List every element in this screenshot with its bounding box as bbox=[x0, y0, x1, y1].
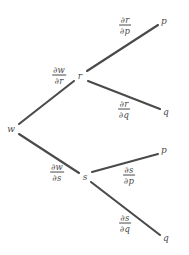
fraction-numerator: ∂r bbox=[119, 16, 131, 25]
fraction-ds-dp: ∂s ∂p bbox=[123, 166, 135, 185]
node-q-from-s: q bbox=[163, 234, 169, 243]
fraction-denominator: ∂r bbox=[52, 76, 66, 85]
node-p-from-r: p bbox=[161, 17, 167, 26]
fraction-ds-dq: ∂s ∂q bbox=[119, 214, 131, 233]
edges-group bbox=[19, 25, 160, 235]
edge-w-to-s bbox=[19, 134, 79, 173]
fraction-denominator: ∂q bbox=[118, 110, 130, 119]
fraction-numerator: ∂s bbox=[123, 166, 135, 175]
fraction-numerator: ∂w bbox=[50, 163, 64, 172]
edge-label-ds-dp: ∂s ∂p bbox=[123, 166, 135, 187]
edge-w-to-r bbox=[19, 81, 74, 124]
fraction-dr-dq: ∂r ∂q bbox=[118, 100, 130, 119]
node-p-from-s: p bbox=[161, 146, 167, 155]
fraction-numerator: ∂s bbox=[119, 214, 131, 223]
node-s: s bbox=[83, 173, 88, 182]
edge-label-ds-dq: ∂s ∂q bbox=[119, 214, 131, 235]
node-w: w bbox=[7, 125, 15, 134]
fraction-dw-ds: ∂w ∂s bbox=[50, 163, 64, 182]
fraction-numerator: ∂w bbox=[52, 66, 66, 75]
edge-label-dw-ds: ∂w ∂s bbox=[50, 163, 64, 184]
edge-label-dw-dr: ∂w ∂r bbox=[52, 66, 66, 87]
fraction-denominator: ∂p bbox=[119, 26, 131, 35]
fraction-dr-dp: ∂r ∂p bbox=[119, 16, 131, 35]
chain-rule-tree-diagram: w r s p q p q ∂w ∂r ∂w ∂s ∂r ∂p ∂r ∂q bbox=[0, 0, 189, 255]
fraction-denominator: ∂q bbox=[119, 224, 131, 233]
node-r: r bbox=[78, 72, 82, 81]
node-q-from-r: q bbox=[163, 108, 169, 117]
fraction-denominator: ∂s bbox=[50, 173, 64, 182]
edge-label-dr-dp: ∂r ∂p bbox=[119, 16, 131, 37]
tree-edges-svg bbox=[0, 0, 189, 255]
fraction-denominator: ∂p bbox=[123, 176, 135, 185]
fraction-dw-dr: ∂w ∂r bbox=[52, 66, 66, 85]
fraction-numerator: ∂r bbox=[118, 100, 130, 109]
edge-label-dr-dq: ∂r ∂q bbox=[118, 100, 130, 121]
